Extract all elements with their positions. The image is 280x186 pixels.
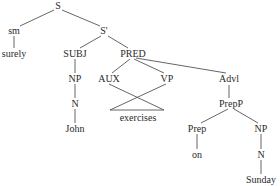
tree-edge: [136, 58, 226, 73]
tree-node-john: John: [66, 124, 85, 134]
tree-node-sunday: Sunday: [246, 175, 276, 185]
tree-edge: [134, 59, 164, 73]
tree-node-surely: surely: [2, 49, 26, 59]
tree-node-pred: PRED: [120, 49, 146, 59]
tree-edge: [80, 36, 101, 48]
tree-edges: [0, 0, 280, 186]
tree-node-np2: NP: [255, 124, 268, 134]
tree-edge: [109, 84, 164, 110]
tree-edge: [234, 109, 258, 123]
tree-edge: [201, 109, 228, 123]
tree-node-s: S: [55, 1, 61, 11]
tree-node-n2: N: [257, 150, 264, 160]
tree-node-sprime: S': [100, 26, 107, 36]
tree-node-aux: AUX: [98, 74, 120, 84]
tree-node-prep: Prep: [188, 124, 206, 134]
tree-edge: [110, 84, 166, 110]
tree-node-on: on: [192, 150, 202, 160]
tree-edge: [62, 10, 100, 26]
tree-edge: [112, 59, 130, 73]
tree-node-prepp: PrepP: [219, 99, 243, 109]
tree-node-advl: Advl: [219, 74, 239, 84]
tree-node-subj: SUBJ: [63, 49, 86, 59]
tree-node-n1: N: [71, 99, 78, 109]
tree-node-exercises: exercises: [120, 113, 157, 123]
tree-edge: [20, 10, 54, 26]
tree-edge: [108, 36, 128, 48]
tree-node-np1: NP: [69, 74, 82, 84]
tree-node-sm: sm: [8, 26, 20, 36]
tree-node-vp: VP: [161, 74, 174, 84]
